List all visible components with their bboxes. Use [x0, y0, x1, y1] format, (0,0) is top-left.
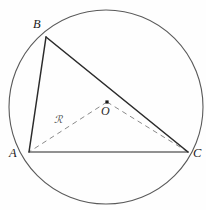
- triangle-edge-ab: [29, 37, 46, 152]
- radius-label-r: ℛ: [54, 114, 62, 125]
- center-label-o: O: [101, 105, 110, 117]
- radius-segment-oc: [107, 102, 188, 152]
- radius-segment-oa: [29, 102, 107, 152]
- vertex-label-b: B: [33, 18, 41, 31]
- vertex-label-c: C: [193, 147, 201, 160]
- geometry-figure: A B C O ℛ: [0, 0, 206, 210]
- triangle-edge-bc: [46, 37, 188, 152]
- vertex-label-a: A: [9, 147, 17, 160]
